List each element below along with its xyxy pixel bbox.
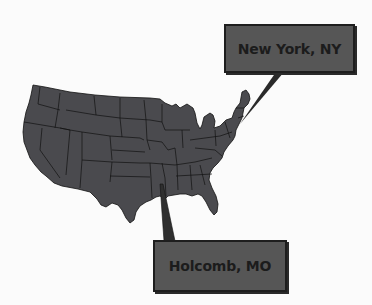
callout-holcomb: Holcomb, MO bbox=[153, 240, 287, 292]
diagram: New York, NY Holcomb, MO bbox=[0, 0, 372, 305]
callout-new-york: New York, NY bbox=[224, 24, 355, 73]
callout-label-holcomb: Holcomb, MO bbox=[169, 258, 272, 274]
callout-label-new-york: New York, NY bbox=[238, 41, 341, 57]
us-outline bbox=[23, 85, 250, 223]
